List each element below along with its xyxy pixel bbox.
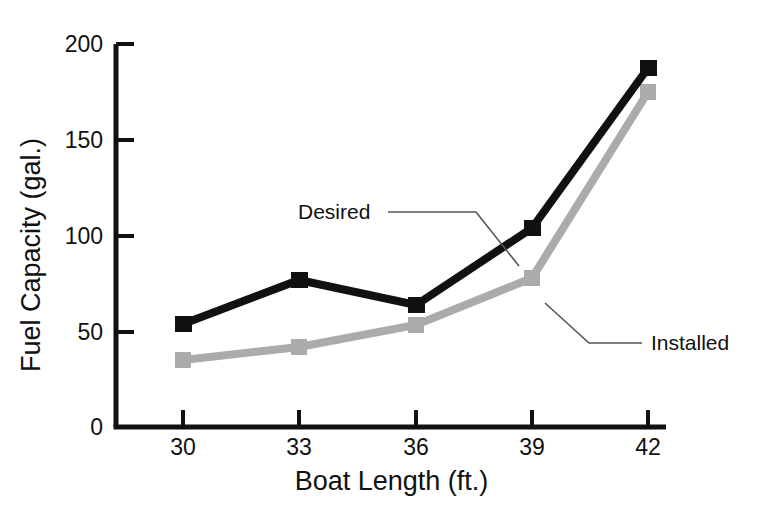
x-tick-label-39: 39 xyxy=(497,434,567,461)
desired-marker-36 xyxy=(408,297,425,313)
installed-leader-line xyxy=(545,303,642,343)
installed-marker-30 xyxy=(175,352,191,368)
installed-marker-42 xyxy=(640,84,656,100)
axis-lines xyxy=(114,44,667,427)
y-axis-ticks xyxy=(116,44,134,332)
fuel-capacity-line-chart: Fuel Capacity (gal.) Boat Length (ft.) 2… xyxy=(0,0,783,526)
desired-leader-line xyxy=(388,212,519,266)
y-tick-label-200: 200 xyxy=(33,31,103,58)
desired-marker-30 xyxy=(175,316,192,332)
series-installed xyxy=(175,84,656,368)
x-tick-label-33: 33 xyxy=(264,434,334,461)
y-tick-label-50: 50 xyxy=(33,319,103,346)
desired-marker-33 xyxy=(291,272,308,288)
x-axis-ticks xyxy=(183,410,648,427)
series-annotation-desired: Desired xyxy=(298,200,370,224)
x-tick-label-30: 30 xyxy=(148,434,218,461)
installed-marker-36 xyxy=(408,317,424,333)
installed-marker-33 xyxy=(291,339,307,355)
x-axis-title: Boat Length (ft.) xyxy=(0,466,783,497)
x-tick-label-36: 36 xyxy=(381,434,451,461)
y-tick-label-0: 0 xyxy=(33,414,103,441)
y-tick-label-100: 100 xyxy=(33,223,103,250)
series-annotation-installed: Installed xyxy=(651,331,729,355)
desired-marker-39 xyxy=(524,220,541,236)
desired-marker-42 xyxy=(640,60,657,76)
x-tick-label-42: 42 xyxy=(613,434,683,461)
y-tick-label-150: 150 xyxy=(33,127,103,154)
installed-marker-39 xyxy=(524,270,540,286)
desired-line xyxy=(183,68,648,324)
